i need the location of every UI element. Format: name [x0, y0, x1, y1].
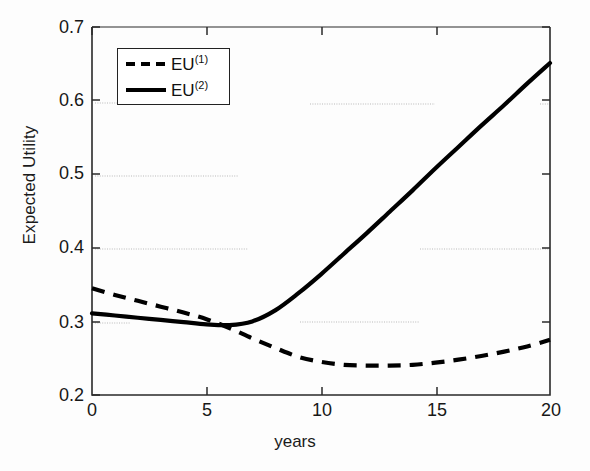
legend-label-eu1: EU(1) [171, 56, 208, 73]
legend-solid-line-icon [124, 83, 168, 97]
series-line-eu1 [92, 288, 550, 365]
legend-label-superscript: (2) [195, 79, 208, 91]
legend: EU(1) EU(2) [117, 48, 230, 105]
legend-label-base: EU [171, 81, 195, 100]
chart-figure: Expected Utility 0.7 0.6 0.5 0.4 0.3 0.2… [0, 0, 590, 471]
plot-area [0, 0, 590, 471]
legend-label-base: EU [171, 55, 195, 74]
legend-entry-eu2: EU(2) [118, 77, 231, 103]
legend-entry-eu1: EU(1) [118, 51, 231, 77]
scan-artifacts [95, 103, 549, 323]
legend-dashed-line-icon [124, 57, 168, 71]
legend-label-eu2: EU(2) [171, 82, 208, 99]
legend-label-superscript: (1) [195, 53, 208, 65]
